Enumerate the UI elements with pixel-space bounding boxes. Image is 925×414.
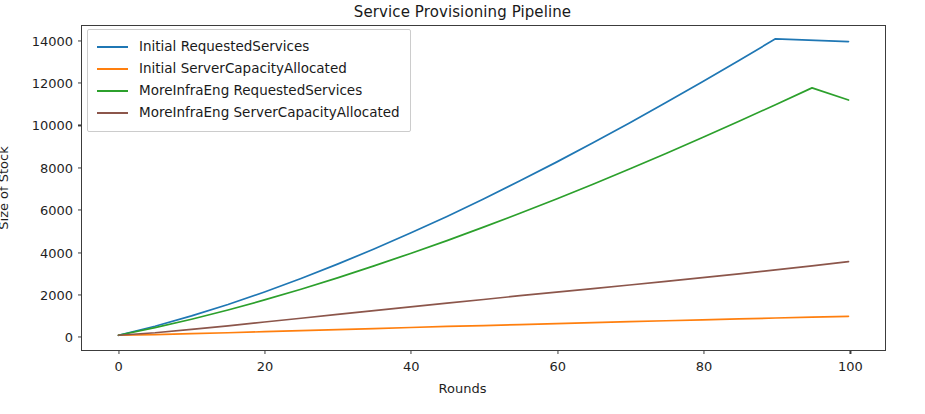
x-tick-mark xyxy=(850,350,851,354)
chart-title: Service Provisioning Pipeline xyxy=(0,3,925,21)
x-tick-label: 60 xyxy=(549,359,566,374)
x-tick-mark xyxy=(264,350,265,354)
x-tick-label: 0 xyxy=(114,359,122,374)
y-tick-mark xyxy=(78,210,82,211)
x-tick-mark xyxy=(557,350,558,354)
legend-item[interactable]: MoreInfraEng ServerCapacityAllocated xyxy=(97,102,400,124)
y-tick-mark xyxy=(78,167,82,168)
y-tick-mark xyxy=(78,125,82,126)
legend-item[interactable]: MoreInfraEng RequestedServices xyxy=(97,80,400,102)
y-tick-label: 10000 xyxy=(32,118,82,133)
legend-item[interactable]: Initial RequestedServices xyxy=(97,36,400,58)
x-tick-label: 80 xyxy=(696,359,713,374)
y-tick-label: 14000 xyxy=(32,33,82,48)
chart-figure: Service Provisioning Pipeline 0200040006… xyxy=(0,0,925,414)
series-line xyxy=(118,262,848,336)
x-tick-mark xyxy=(118,350,119,354)
legend-color-swatch xyxy=(97,90,128,92)
y-tick-label: 8000 xyxy=(40,160,82,175)
y-tick-mark xyxy=(78,294,82,295)
y-tick-label: 6000 xyxy=(40,203,82,218)
legend-label: Initial RequestedServices xyxy=(139,40,309,54)
x-tick-label: 20 xyxy=(257,359,274,374)
y-tick-label: 2000 xyxy=(40,287,82,302)
x-tick-mark xyxy=(703,350,704,354)
x-tick-label: 100 xyxy=(838,359,863,374)
x-tick-mark xyxy=(411,350,412,354)
x-tick-label: 40 xyxy=(403,359,420,374)
legend-color-swatch xyxy=(97,112,128,114)
x-axis-label: Rounds xyxy=(0,381,925,396)
legend-label: MoreInfraEng RequestedServices xyxy=(139,84,362,98)
legend-item[interactable]: Initial ServerCapacityAllocated xyxy=(97,58,400,80)
y-tick-mark xyxy=(78,83,82,84)
y-axis-label: Size of Stock xyxy=(0,146,11,229)
y-tick-mark xyxy=(78,337,82,338)
legend-color-swatch xyxy=(97,46,128,48)
legend-label: MoreInfraEng ServerCapacityAllocated xyxy=(139,106,400,120)
legend-color-swatch xyxy=(97,68,128,70)
y-tick-mark xyxy=(78,252,82,253)
y-tick-label: 4000 xyxy=(40,245,82,260)
legend-label: Initial ServerCapacityAllocated xyxy=(139,62,347,76)
chart-legend: Initial RequestedServicesInitial ServerC… xyxy=(87,29,411,132)
y-tick-mark xyxy=(78,40,82,41)
y-tick-label: 12000 xyxy=(32,76,82,91)
